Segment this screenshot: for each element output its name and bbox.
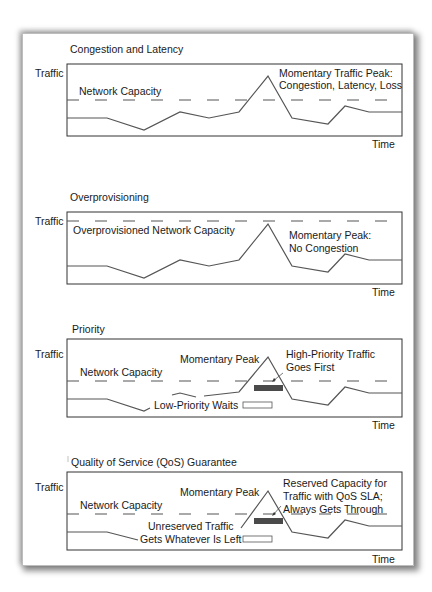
- peak-label: Momentary Peak: [180, 353, 260, 365]
- unreserved-label-line-2: Gets Whatever Is Left: [140, 533, 242, 545]
- annotation-line-2: Congestion, Latency, Loss: [279, 79, 402, 91]
- y-axis-label: Traffic: [35, 215, 64, 227]
- annotation-line-1: High-Priority Traffic: [286, 348, 375, 360]
- annotation-line-2: Goes First: [286, 361, 335, 373]
- annotation-line-2: No Congestion: [289, 242, 359, 254]
- panel-title: Congestion and Latency: [70, 43, 184, 55]
- peak-label: Momentary Peak: [180, 486, 260, 498]
- annotation-line-1: Momentary Traffic Peak:: [279, 67, 393, 79]
- reserved-bar: [254, 518, 283, 524]
- panel-overprovisioning: Overprovisioning Traffic Overprovisioned…: [35, 191, 402, 298]
- annotation-line-1: Momentary Peak:: [289, 229, 371, 241]
- annotation-line-3: Always Gets Through: [283, 503, 383, 515]
- panel-congestion: Congestion and Latency Traffic Network C…: [35, 43, 402, 150]
- traffic-line-small: [172, 393, 196, 397]
- low-priority-bar: [243, 402, 272, 408]
- diagram-canvas: Congestion and Latency Traffic Network C…: [0, 0, 432, 592]
- low-priority-label: Low-Priority Waits: [154, 399, 238, 411]
- panel-priority: Priority Traffic Network Capacity Moment…: [35, 323, 402, 431]
- traffic-line-left: [67, 399, 150, 411]
- y-axis-label: Traffic: [35, 481, 64, 493]
- unreserved-bar: [243, 536, 272, 542]
- panel-title: Overprovisioning: [70, 191, 149, 203]
- panel-title: Quality of Service (QoS) Guarantee: [71, 456, 237, 468]
- panel-title: Priority: [72, 323, 105, 335]
- capacity-label: Network Capacity: [80, 499, 163, 511]
- y-axis-label: Traffic: [35, 348, 64, 360]
- unreserved-label-line-1: Unreserved Traffic: [148, 520, 234, 532]
- capacity-label: Network Capacity: [79, 85, 162, 97]
- annotation-line-1: Reserved Capacity for: [283, 477, 387, 489]
- annotation-line-2: Traffic with QoS SLA;: [283, 490, 383, 502]
- high-priority-bar: [254, 385, 283, 391]
- traffic-line-left: [67, 532, 138, 540]
- panel-qos: Quality of Service (QoS) Guarantee Traff…: [35, 456, 402, 565]
- capacity-label: Network Capacity: [80, 366, 163, 378]
- x-axis-label: Time: [372, 138, 395, 150]
- capacity-label: Overprovisioned Network Capacity: [73, 224, 235, 236]
- x-axis-label: Time: [372, 553, 395, 565]
- x-axis-label: Time: [372, 286, 395, 298]
- x-axis-label: Time: [372, 419, 395, 431]
- y-axis-label: Traffic: [35, 67, 64, 79]
